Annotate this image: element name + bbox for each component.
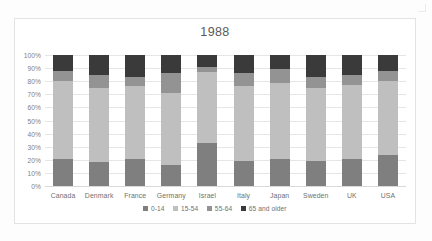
x-axis-tick-label: Denmark bbox=[81, 189, 117, 203]
bar-segment[interactable] bbox=[270, 55, 290, 69]
bar-segment[interactable] bbox=[306, 88, 326, 161]
bar-segment[interactable] bbox=[89, 55, 109, 75]
stacked-bar[interactable] bbox=[89, 55, 109, 186]
legend-swatch-icon bbox=[173, 206, 178, 211]
stacked-bar[interactable] bbox=[53, 55, 73, 186]
stacked-bar[interactable] bbox=[270, 55, 290, 186]
stacked-bar[interactable] bbox=[234, 55, 254, 186]
axis-baseline bbox=[45, 186, 406, 187]
bar-segment[interactable] bbox=[161, 73, 181, 93]
bar-segment[interactable] bbox=[197, 72, 217, 143]
bar-segment[interactable] bbox=[125, 86, 145, 158]
legend-label: 55-64 bbox=[215, 205, 232, 212]
x-axis-tick-label: France bbox=[117, 189, 153, 203]
bar-segment[interactable] bbox=[234, 55, 254, 73]
bar-group bbox=[117, 55, 153, 186]
bar-segment[interactable] bbox=[306, 77, 326, 87]
bar-segment[interactable] bbox=[234, 73, 254, 86]
x-axis-tick-labels: CanadaDenmarkFranceGermanyIsraelItalyJap… bbox=[45, 189, 406, 203]
legend-swatch-icon bbox=[241, 206, 246, 211]
stacked-bar[interactable] bbox=[306, 55, 326, 186]
bar-group bbox=[262, 55, 298, 186]
bar-segment[interactable] bbox=[53, 159, 73, 187]
y-axis-tick-label: 100% bbox=[24, 52, 41, 59]
y-axis-tick-label: 70% bbox=[28, 91, 42, 98]
chart-legend: 0-1415-5455-6465 and older bbox=[15, 205, 415, 212]
bar-segment[interactable] bbox=[53, 71, 73, 81]
legend-item[interactable]: 0-14 bbox=[143, 205, 164, 212]
legend-item[interactable]: 15-54 bbox=[173, 205, 198, 212]
bar-segment[interactable] bbox=[161, 165, 181, 186]
bar-group bbox=[370, 55, 406, 186]
bar-group bbox=[189, 55, 225, 186]
y-axis-tick-label: 20% bbox=[28, 156, 42, 163]
legend-item[interactable]: 65 and older bbox=[241, 205, 286, 212]
y-axis-tick-label: 30% bbox=[28, 143, 42, 150]
legend-item[interactable]: 55-64 bbox=[207, 205, 232, 212]
bar-segment[interactable] bbox=[378, 71, 398, 81]
bar-segment[interactable] bbox=[89, 75, 109, 88]
bar-segment[interactable] bbox=[197, 55, 217, 67]
stacked-bar[interactable] bbox=[378, 55, 398, 186]
bar-series-group bbox=[45, 55, 406, 186]
bar-segment[interactable] bbox=[89, 88, 109, 163]
y-axis-tick-labels: 0%10%20%30%40%50%60%70%80%90%100% bbox=[15, 55, 44, 186]
y-axis-tick-label: 80% bbox=[28, 78, 42, 85]
bar-group bbox=[81, 55, 117, 186]
x-axis-tick-label: Japan bbox=[262, 189, 298, 203]
legend-label: 65 and older bbox=[249, 205, 287, 212]
bar-segment[interactable] bbox=[378, 81, 398, 154]
bar-segment[interactable] bbox=[270, 83, 290, 159]
stacked-bar[interactable] bbox=[125, 55, 145, 186]
stacked-bar[interactable] bbox=[342, 55, 362, 186]
stacked-bar[interactable] bbox=[161, 55, 181, 186]
x-axis-tick-label: Canada bbox=[45, 189, 81, 203]
bar-segment[interactable] bbox=[342, 75, 362, 85]
bar-segment[interactable] bbox=[53, 55, 73, 71]
y-axis-tick-label: 40% bbox=[28, 130, 42, 137]
page-corner-mark-icon bbox=[418, 4, 426, 12]
y-axis-tick-label: 60% bbox=[28, 104, 42, 111]
bar-segment[interactable] bbox=[342, 85, 362, 158]
bar-segment[interactable] bbox=[125, 77, 145, 86]
bar-segment[interactable] bbox=[378, 155, 398, 186]
x-axis-tick-label: Sweden bbox=[298, 189, 334, 203]
y-axis-tick-label: 50% bbox=[28, 117, 42, 124]
bar-group bbox=[298, 55, 334, 186]
bar-segment[interactable] bbox=[125, 55, 145, 77]
bar-segment[interactable] bbox=[53, 81, 73, 158]
bar-segment[interactable] bbox=[161, 93, 181, 165]
bar-segment[interactable] bbox=[161, 55, 181, 73]
bar-group bbox=[225, 55, 261, 186]
bar-segment[interactable] bbox=[270, 69, 290, 82]
legend-label: 15-54 bbox=[181, 205, 198, 212]
stacked-bar[interactable] bbox=[197, 55, 217, 186]
x-axis-tick-label: USA bbox=[370, 189, 406, 203]
bar-segment[interactable] bbox=[89, 162, 109, 186]
bar-segment[interactable] bbox=[234, 161, 254, 186]
x-axis-tick-label: UK bbox=[334, 189, 370, 203]
x-axis-tick-label: Italy bbox=[225, 189, 261, 203]
x-axis-tick-label: Germany bbox=[153, 189, 189, 203]
bar-segment[interactable] bbox=[306, 55, 326, 77]
bar-segment[interactable] bbox=[197, 143, 217, 186]
bar-segment[interactable] bbox=[306, 161, 326, 186]
bar-segment[interactable] bbox=[234, 86, 254, 161]
bar-segment[interactable] bbox=[270, 159, 290, 187]
bar-segment[interactable] bbox=[342, 159, 362, 187]
bar-group bbox=[153, 55, 189, 186]
y-axis-tick-label: 0% bbox=[31, 183, 41, 190]
y-axis-tick-label: 10% bbox=[28, 169, 42, 176]
bar-segment[interactable] bbox=[342, 55, 362, 75]
y-axis-tick-label: 90% bbox=[28, 65, 42, 72]
chart-title: 1988 bbox=[15, 25, 415, 39]
bar-group bbox=[45, 55, 81, 186]
bar-segment[interactable] bbox=[378, 55, 398, 71]
plot-area bbox=[45, 55, 406, 186]
legend-swatch-icon bbox=[207, 206, 212, 211]
bar-group bbox=[334, 55, 370, 186]
bar-segment[interactable] bbox=[125, 159, 145, 187]
chart-container[interactable]: 1988 0%10%20%30%40%50%60%70%80%90%100% C… bbox=[14, 18, 416, 224]
document-page: 1988 0%10%20%30%40%50%60%70%80%90%100% C… bbox=[0, 0, 432, 241]
legend-swatch-icon bbox=[143, 206, 148, 211]
